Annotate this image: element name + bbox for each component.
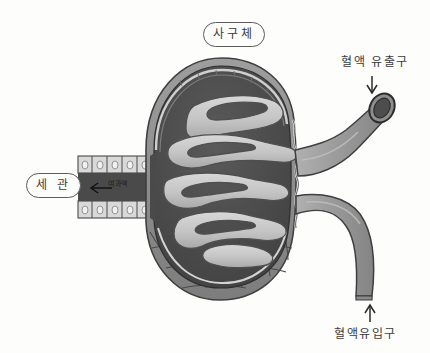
arrow-down-icon xyxy=(367,76,377,93)
arrow-up-icon xyxy=(365,305,375,322)
label-blood-outflow: 혈액 유출구 xyxy=(341,56,409,68)
label-blood-inflow: 혈액유입구 xyxy=(334,328,397,340)
vascular-pole xyxy=(293,89,400,300)
label-tubule: 세 관 xyxy=(26,173,81,198)
tubule-epithelium-top xyxy=(78,156,152,173)
tubule-epithelium-bottom xyxy=(78,201,152,218)
afferent-arteriole-cut-end xyxy=(356,296,372,300)
label-filtrate: 여과액 xyxy=(108,181,128,188)
afferent-arteriole xyxy=(296,195,374,296)
tubule-capsule-junction xyxy=(150,152,156,222)
diagram-canvas: 사구체 세 관 혈액 유출구 혈액유입구 여과액 xyxy=(0,0,430,353)
label-glomerulus: 사구체 xyxy=(203,22,265,47)
